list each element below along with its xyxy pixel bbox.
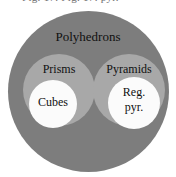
set-label-reg-pyr: Reg. pyr. [108, 85, 160, 115]
cropped-caption-strip: Fig. 17. Fig. 17. pyr. [0, 0, 176, 9]
set-label-reg-pyr-line1: Reg. [108, 85, 160, 100]
euler-diagram-figure: Fig. 17. Fig. 17. pyr. Polyhedrons Prism… [0, 0, 176, 177]
set-label-pyramids: Pyramids [92, 62, 166, 76]
set-label-cubes: Cubes [29, 95, 77, 109]
cropped-caption-text: Fig. 17. Fig. 17. pyr. [22, 0, 162, 3]
set-label-prisms: Prisms [23, 62, 95, 76]
set-label-reg-pyr-line2: pyr. [108, 100, 160, 115]
set-label-polyhedrons: Polyhedrons [0, 29, 176, 44]
